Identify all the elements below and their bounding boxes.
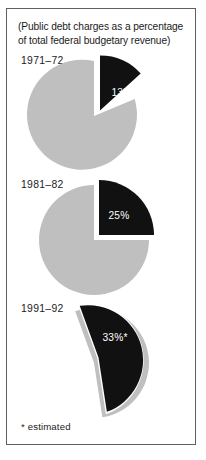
pie-slice-highlight-1981-82 bbox=[97, 179, 155, 237]
pie-chart-1971-72: 13% bbox=[8, 54, 188, 178]
figure-public-debt-charges: (Public debt charges as a percentage of … bbox=[0, 0, 206, 460]
pie-chart-1991-92: 33%* bbox=[8, 301, 188, 425]
figure-title: (Public debt charges as a percentage of … bbox=[18, 20, 182, 47]
pie-svg-1971-72: 13% bbox=[8, 54, 188, 178]
pie-slice-label-1991-92: 33%* bbox=[102, 332, 127, 343]
pie-svg-1991-92: 33%* bbox=[8, 301, 188, 425]
pie-svg-1981-82: 25% bbox=[8, 178, 188, 302]
figure-footnote: * estimated bbox=[21, 421, 71, 432]
pie-slice-label-1981-82: 25% bbox=[109, 210, 130, 221]
pie-slice-label-1971-72: 13% bbox=[112, 87, 133, 98]
figure-title-line-2: of total federal budgetary revenue) bbox=[18, 34, 182, 48]
figure-title-line-1: (Public debt charges as a percentage bbox=[18, 20, 182, 34]
pie-chart-1981-82: 25% bbox=[8, 178, 188, 302]
